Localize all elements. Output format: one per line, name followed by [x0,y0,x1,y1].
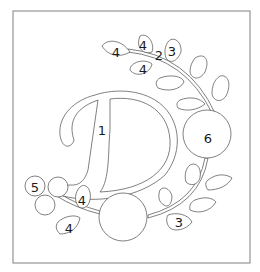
flower-circle-bottom [99,193,147,241]
pattern-canvas: 1 2 3 4 4 4 6 5 4 4 3 [0,0,260,272]
label-leaf-top-middle: 4 [139,38,147,53]
label-leaf-left-lower: 4 [65,221,73,236]
label-leaf-top-left: 4 [112,45,120,60]
label-small-circle: 5 [31,180,39,195]
label-big-circle: 6 [204,131,212,146]
label-stem: 2 [155,48,163,63]
label-leaf-top-right: 3 [168,44,176,59]
label-letter-d: 1 [98,123,106,138]
label-leaf-left-upper: 4 [78,193,86,208]
label-leaf-top-lower: 4 [139,62,147,77]
label-leaf-bottom-right: 3 [175,215,183,230]
